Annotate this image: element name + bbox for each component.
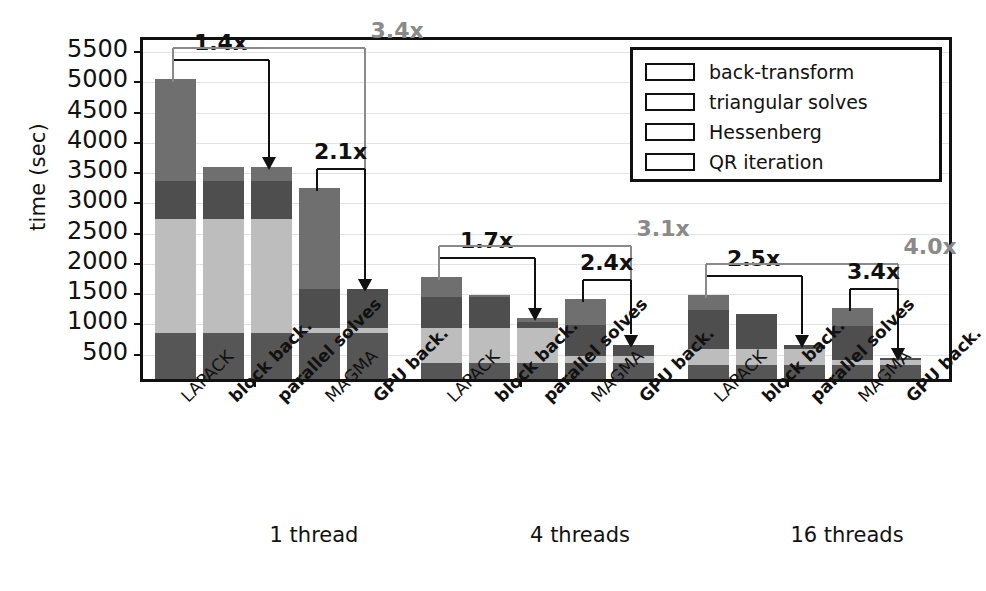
group-label-16-threads: 16 threads [790,523,903,547]
y-tick [134,142,143,144]
y-tick-label: 5500 [67,35,128,63]
y-tick [134,112,143,114]
bar-segment-back-transform [469,295,510,297]
annotation-line [439,257,535,259]
y-tick-label: 3000 [67,186,128,214]
bar-segment-triangular-solves [155,181,196,219]
annotation-line [173,59,269,61]
legend-swatch-triangular-solves [645,93,695,111]
y-tick [134,263,143,265]
bar-segment-qr-iteration [155,333,196,379]
arrow-head-icon [891,348,905,361]
annotation-line [705,264,707,298]
y-axis-title: time (sec) [26,47,50,307]
y-tick [134,354,143,356]
annotation-line [534,258,536,309]
annotation-line [172,48,174,82]
y-tick-label: 1500 [67,277,128,305]
arrow-head-icon [528,308,542,321]
legend-swatch-hessenberg [645,123,695,141]
speedup-label: 3.4x [847,259,900,284]
annotation-line [317,168,365,170]
bar-segment-triangular-solves [203,181,244,219]
y-tick [134,293,143,295]
y-tick [134,81,143,83]
legend-item[interactable]: back-transform [633,57,939,87]
annotation-line [439,245,631,247]
legend: back-transform triangular solves Hessenb… [630,47,942,182]
speedup-label: 3.4x [371,18,424,43]
bar-segment-triangular-solves [736,314,777,349]
y-tick-label: 4000 [67,126,128,154]
annotation-line [706,275,802,277]
legend-swatch-back-transform [645,63,695,81]
arrow-head-icon [795,335,809,348]
annotation-line [801,276,803,334]
y-tick-label: 3500 [67,156,128,184]
y-tick-label: 2500 [67,217,128,245]
arrow-head-icon [358,279,372,292]
legend-swatch-qr-iteration [645,153,695,171]
speedup-label: 1.7x [460,228,513,253]
bar-segment-triangular-solves [517,322,558,329]
y-tick [134,51,143,53]
bar-segment-hessenberg [203,219,244,333]
annotation-line [173,47,365,49]
legend-item[interactable]: triangular solves [633,87,939,117]
group-label-4-threads: 4 threads [530,523,630,547]
speedup-label: 3.1x [637,216,690,241]
bar-segment-triangular-solves [421,297,462,328]
annotation-line [583,279,631,281]
y-tick-label: 2000 [67,247,128,275]
arrow-head-icon [262,157,276,170]
legend-label: back-transform [709,61,854,83]
legend-label: triangular solves [709,91,868,113]
legend-item[interactable]: QR iteration [633,147,939,177]
bar-segment-back-transform [155,79,196,181]
annotation-line [438,246,440,280]
bar-segment-hessenberg [251,219,292,333]
legend-label: Hessenberg [709,121,822,143]
annotation-line [849,289,851,311]
annotation-line [316,169,318,191]
annotation-line [897,289,899,348]
bar-lapack[interactable] [155,79,196,379]
bar-segment-qr-iteration [421,363,462,379]
y-tick-label: 500 [82,338,128,366]
annotation-line [268,60,270,157]
group-label-1-thread: 1 thread [270,523,359,547]
speedup-label: 2.5x [727,246,780,271]
bar-segment-back-transform [688,295,729,310]
annotation-line [364,169,366,278]
annotation-line [630,280,632,334]
y-tick-label: 4500 [67,96,128,124]
bar-segment-triangular-solves [251,181,292,219]
speedup-label: 4.0x [904,234,957,259]
y-tick [134,202,143,204]
bar-segment-triangular-solves [469,297,510,328]
bar-segment-back-transform [203,167,244,182]
arrow-head-icon [624,335,638,348]
bar-segment-back-transform [299,188,340,288]
speedup-label: 2.4x [580,250,633,275]
legend-label: QR iteration [709,151,823,173]
speedup-label: 2.1x [314,139,367,164]
y-tick [134,323,143,325]
annotation-line [582,280,584,302]
bar-segment-back-transform [421,277,462,297]
speedup-label: 1.4x [194,30,247,55]
legend-item[interactable]: Hessenberg [633,117,939,147]
bar-segment-hessenberg [155,219,196,333]
y-tick-label: 5000 [67,65,128,93]
y-tick [134,172,143,174]
y-tick [134,233,143,235]
bar-segment-qr-iteration [688,365,729,379]
annotation-line [850,288,898,290]
y-tick-label: 1000 [67,307,128,335]
